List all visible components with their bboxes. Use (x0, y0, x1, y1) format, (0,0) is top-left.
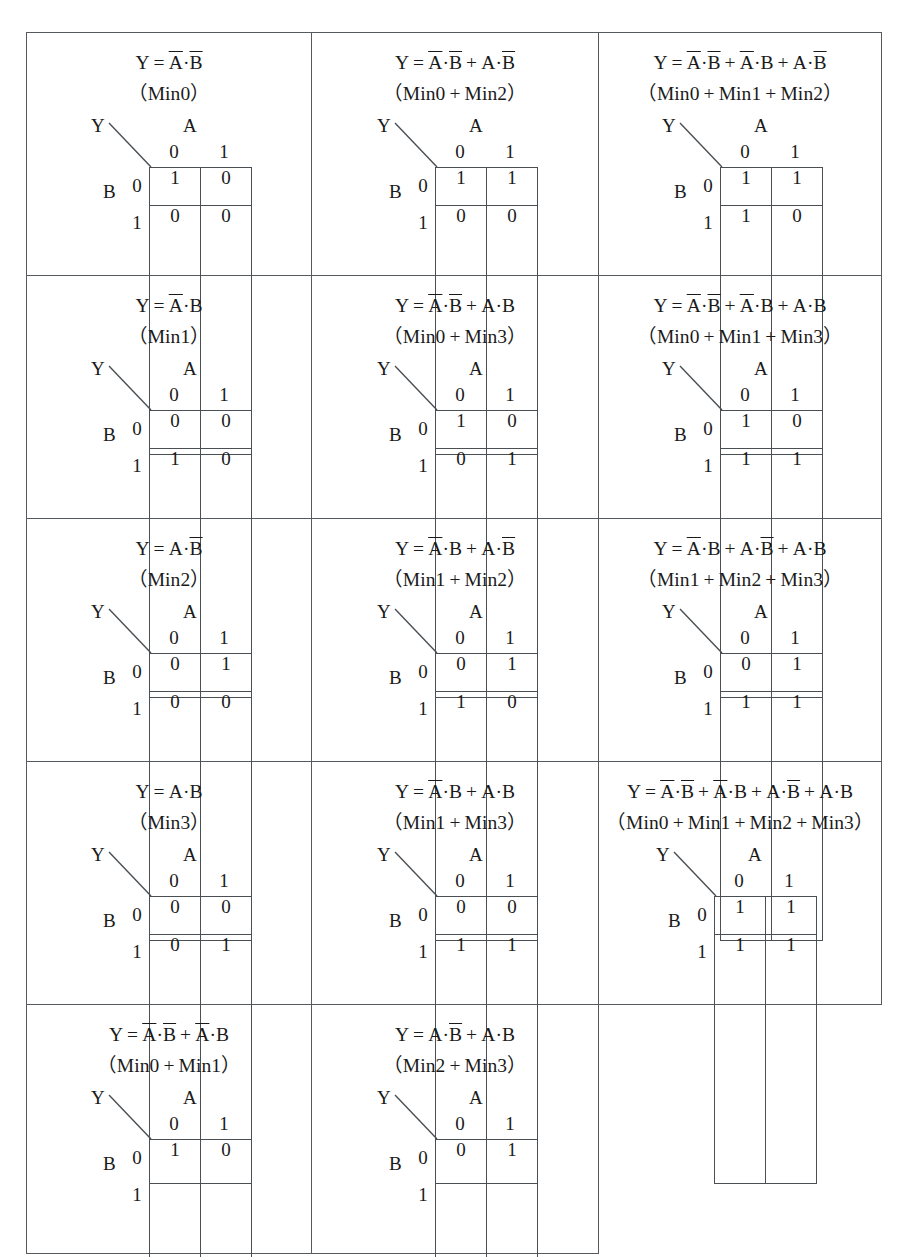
column-header-1: 1 (199, 141, 249, 163)
kmap-grid-row: 01 (436, 1140, 538, 1257)
row-header-0: 0 (413, 410, 433, 447)
kmap-value-0-1: 1 (766, 897, 817, 935)
row-header-1: 1 (127, 690, 147, 727)
row-headers: 01 (127, 410, 147, 484)
output-variable-label: Y (91, 1087, 105, 1109)
boolean-expression: Y = A·B + A·B (312, 535, 598, 563)
kmap-entry-min0-min1-min3: Y = A·B + A·B + A·B（Min0 + Min1 + Min3）Y… (599, 276, 881, 518)
row-headers: 01 (413, 1139, 433, 1213)
row-variable-label: B (668, 910, 681, 932)
kmap-entry-min3: Y = A·B（Min3）YAB01010001 (27, 762, 311, 1004)
boolean-expression: Y = A·B + A·B (27, 1021, 311, 1049)
column-headers: 01 (149, 1113, 249, 1135)
kmap-entry-min1-min2: Y = A·B + A·B（Min1 + Min2）YAB01010110 (312, 519, 598, 761)
minterm-label: （Min0 + Min1 + Min2） (599, 80, 881, 108)
column-headers: 01 (435, 870, 535, 892)
column-headers: 01 (714, 870, 814, 892)
row-header-0: 0 (698, 653, 718, 690)
column-header-1: 1 (199, 870, 249, 892)
kmap-value-0-0: 1 (150, 168, 201, 206)
kmap-grid-row: 10 (436, 411, 538, 449)
expression-block: Y = A·B + A·B（Min0 + Min3） (312, 276, 598, 350)
row-variable-label: B (389, 1153, 402, 1175)
kmap-value-0-0: 0 (436, 654, 487, 692)
kmap-grid-row: 11 (721, 168, 823, 206)
column-header-0: 0 (149, 1113, 199, 1135)
kmap-entry-min0: Y = A·B（Min0）YAB01011000 (27, 33, 311, 275)
column-headers: 01 (149, 141, 249, 163)
column-header-0: 0 (149, 627, 199, 649)
expression-block: Y = A·B + A·B + A·B + A·B（Min0 + Min1 + … (599, 762, 881, 836)
column-variable-label: A (183, 601, 197, 623)
boolean-expression: Y = A·B + A·B + A·B (599, 535, 881, 563)
kmap-grid-row: 10 (721, 411, 823, 449)
row-headers: 01 (413, 896, 433, 970)
kmap-entry-min2-min3: Y = A·B + A·B（Min2 + Min3）YAB01010101 (312, 1005, 598, 1253)
boolean-expression: Y = A·B (27, 292, 311, 320)
row-variable-label: B (103, 910, 116, 932)
output-variable-label: Y (91, 844, 105, 866)
column-header-1: 1 (485, 627, 535, 649)
kmap-grid-row: 00 (150, 411, 252, 449)
kmap-value-0-0: 0 (436, 1140, 487, 1257)
table-row: Y = A·B（Min1）YAB01010010 Y = A·B + A·B（M… (27, 276, 882, 519)
kmap-grid-row: 00 (150, 897, 252, 935)
kmap-grid-row: 00 (436, 897, 538, 935)
expression-block: Y = A·B + A·B（Min2 + Min3） (312, 1005, 598, 1079)
output-variable-label: Y (662, 115, 676, 137)
kmap-cell-4: Y = A·B + A·B（Min0 + Min3）YAB01011001 (312, 276, 599, 519)
kmap-grid-row: 01 (721, 654, 823, 692)
column-variable-label: A (183, 358, 197, 380)
row-header-0: 0 (413, 896, 433, 933)
table-row: Y = A·B（Min2）YAB01010100 Y = A·B + A·B（M… (27, 519, 882, 762)
row-header-1: 1 (698, 690, 718, 727)
kmap-entry-min1-min2-min3: Y = A·B + A·B + A·B（Min1 + Min2 + Min3）Y… (599, 519, 881, 761)
kmap-cell-13: Y = A·B + A·B（Min2 + Min3）YAB01010101 (312, 1005, 599, 1254)
boolean-expression: Y = A·B (27, 49, 311, 77)
row-headers: 01 (127, 653, 147, 727)
row-headers: 01 (127, 167, 147, 241)
minterm-label: （Min1 + Min2） (312, 566, 598, 594)
karnaugh-map-diagram: YAB01010100 (87, 601, 259, 731)
row-header-0: 0 (413, 653, 433, 690)
kmap-entry-min0-min3: Y = A·B + A·B（Min0 + Min3）YAB01011001 (312, 276, 598, 518)
kmap-value-0-1: 0 (772, 411, 823, 449)
expression-block: Y = A·B（Min0） (27, 33, 311, 107)
row-variable-label: B (103, 667, 116, 689)
output-variable-label: Y (377, 601, 391, 623)
row-header-0: 0 (413, 167, 433, 204)
kmap-entry-min1-min3: Y = A·B + A·B（Min1 + Min3）YAB01010011 (312, 762, 598, 1004)
row-header-1: 1 (698, 204, 718, 241)
column-header-1: 1 (199, 1113, 249, 1135)
boolean-expression: Y = A·B + A·B (312, 778, 598, 806)
boolean-expression: Y = A·B + A·B + A·B (599, 292, 881, 320)
output-variable-label: Y (91, 115, 105, 137)
kmap-cell-12: Y = A·B + A·B（Min0 + Min1）YAB01011010 (27, 1005, 312, 1254)
minterm-label: （Min0 + Min1） (27, 1052, 311, 1080)
row-header-1: 1 (127, 933, 147, 970)
karnaugh-map-diagram: YAB01011100 (373, 115, 545, 245)
kmap-cell-6: Y = A·B（Min2）YAB01010100 (27, 519, 312, 762)
column-headers: 01 (435, 1113, 535, 1135)
column-header-0: 0 (435, 141, 485, 163)
kmap-cell-3: Y = A·B（Min1）YAB01010010 (27, 276, 312, 519)
output-variable-label: Y (662, 358, 676, 380)
kmap-value-0-0: 0 (436, 897, 487, 935)
column-header-0: 0 (149, 384, 199, 406)
minterm-label: （Min0） (27, 80, 311, 108)
row-variable-label: B (389, 181, 402, 203)
column-headers: 01 (435, 384, 535, 406)
output-variable-label: Y (91, 358, 105, 380)
column-header-1: 1 (485, 141, 535, 163)
kmap-entry-min0-min1: Y = A·B + A·B（Min0 + Min1）YAB01011010 (27, 1005, 311, 1253)
column-header-0: 0 (714, 870, 764, 892)
kmap-value-grid: 1010 (149, 1139, 252, 1257)
kmap-value-0-0: 1 (721, 411, 772, 449)
minterm-label: （Min3） (27, 809, 311, 837)
column-headers: 01 (435, 627, 535, 649)
row-header-1: 1 (413, 690, 433, 727)
output-variable-label: Y (377, 115, 391, 137)
row-header-1: 1 (413, 1176, 433, 1213)
minterm-label: （Min0 + Min3） (312, 323, 598, 351)
expression-block: Y = A·B（Min3） (27, 762, 311, 836)
